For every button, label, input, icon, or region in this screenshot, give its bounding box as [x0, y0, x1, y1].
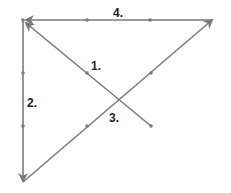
- diagram-svg: 4. 1. 2. 3.: [0, 0, 231, 193]
- segment-1-arrow: [26, 23, 151, 126]
- grid-dot: [85, 18, 89, 22]
- label-4: 4.: [113, 6, 123, 20]
- grid-dot: [149, 124, 153, 128]
- grid-dot: [21, 71, 25, 75]
- grid-dot: [21, 18, 25, 22]
- grid-dot: [21, 124, 25, 128]
- path-diagram: 4. 1. 2. 3.: [0, 0, 231, 193]
- grid-dot: [149, 71, 153, 75]
- label-2: 2.: [27, 96, 37, 110]
- grid-dot: [85, 124, 89, 128]
- label-3: 3.: [109, 111, 119, 125]
- grid-dot: [85, 71, 89, 75]
- grid-dot: [148, 18, 152, 22]
- label-1: 1.: [91, 59, 101, 73]
